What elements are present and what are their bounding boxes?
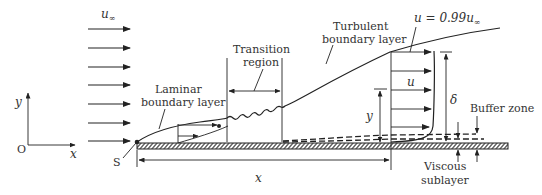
delta-label: δ bbox=[450, 93, 457, 107]
transition-label-line2: region bbox=[243, 56, 279, 69]
buffer-zone-label: Buffer zone bbox=[470, 102, 534, 115]
x-axis-label: x bbox=[70, 147, 77, 161]
y-axis-label: y bbox=[14, 95, 22, 109]
y-dimension-label: y bbox=[365, 109, 373, 123]
freestream-arrows bbox=[88, 29, 130, 141]
viscous-label-line2: sublayer bbox=[421, 174, 470, 187]
x-dimension-label: x bbox=[255, 171, 262, 185]
laminar-velocity-profile bbox=[178, 124, 228, 143]
edge-condition-label: u = 0.99u∞ bbox=[414, 11, 481, 27]
edge-condition-leader bbox=[410, 27, 416, 52]
flat-plate bbox=[137, 143, 508, 149]
leading-edge-leader bbox=[123, 143, 136, 158]
leading-edge-label: S bbox=[113, 156, 121, 169]
turbulent-label-line2: boundary layer bbox=[322, 33, 407, 46]
y-dimension bbox=[374, 89, 387, 142]
sublayer-lines bbox=[283, 134, 484, 142]
laminar-leader bbox=[159, 109, 165, 129]
viscous-label-line1: Viscous bbox=[423, 160, 467, 173]
laminar-label-line2: boundary layer bbox=[141, 96, 226, 109]
x-dimension bbox=[137, 150, 391, 170]
transition-label-line1: Transition bbox=[233, 43, 290, 56]
velocity-u-label: u bbox=[407, 75, 415, 89]
viscous-sublayer-markers bbox=[458, 122, 477, 162]
transition-region-markers bbox=[227, 58, 282, 142]
boundary-layer-diagram: u∞ y x O S Laminar boundary layer Transi… bbox=[0, 0, 542, 195]
turbulent-leader bbox=[326, 45, 333, 64]
laminar-label-line1: Laminar bbox=[155, 83, 202, 96]
transition-leader bbox=[254, 69, 263, 91]
turbulent-label-line1: Turbulent bbox=[333, 20, 389, 33]
origin-label: O bbox=[17, 143, 26, 156]
freestream-velocity-label: u∞ bbox=[101, 7, 115, 23]
coordinate-axes bbox=[28, 93, 75, 145]
